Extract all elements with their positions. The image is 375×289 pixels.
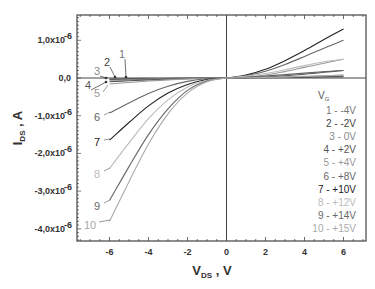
y-tick-exponent: -6 [64,220,72,230]
y-tick-exponent: -6 [64,144,72,154]
legend-entry-5: 5 - +4V [323,157,356,168]
x-tick-label: -6 [105,247,113,257]
annotation-arrow [110,67,115,77]
curve-labels: 12345678910 [84,48,127,231]
y-tick-exponent: -6 [64,107,72,117]
leader-line-7 [104,139,110,140]
legend-entry-3: 3 - 0V [329,131,356,142]
curve-label-9: 9 [94,200,100,212]
x-tick-label: -4 [144,247,152,257]
legend-entry-7: 7 - +10V [318,184,356,195]
y-tick-label: 1,0x10 [37,35,65,45]
annotation-arrow [125,59,126,77]
x-tick-label: 2 [263,247,268,257]
curve-label-4: 4 [85,79,91,91]
y-tick-label: -3,0x10 [34,186,65,196]
legend-entry-8: 8 - +12V [318,197,356,208]
transfer-characteristics-chart: -6-4-202461,0x10-60,0-1,0x10-6-2,0x10-6-… [0,0,375,289]
leader-line-9 [104,200,110,203]
x-tick-label: 0 [224,247,229,257]
curve-label-2: 2 [104,56,110,68]
curve-label-1: 1 [119,48,125,60]
y-tick-exponent: -6 [64,182,72,192]
y-axis-title: IDS , A [10,110,27,145]
leader-line-6 [104,112,110,115]
curve-label-5: 5 [94,87,100,99]
y-tick-label: 0,0 [58,73,71,83]
legend-title: VG [318,90,330,102]
curve-label-3: 3 [94,65,100,77]
x-axis-title: VDS , V [192,263,232,280]
arrow-head [125,76,128,79]
leader-line-5 [103,85,108,92]
arrow-head [105,81,108,84]
curve-label-8: 8 [94,168,100,180]
leader-line-8 [104,168,110,171]
legend-entry-6: 6 - +8V [323,171,356,182]
y-tick-exponent: -6 [64,31,72,41]
arrow-head [114,76,117,79]
curve-label-7: 7 [94,136,100,148]
y-tick-label: -2,0x10 [34,148,65,158]
legend-entry-2: 2 - -2V [326,118,356,129]
legend-entry-1: 1 - -4V [326,105,356,116]
curve-label-6: 6 [94,111,100,123]
x-tick-label: 6 [341,247,346,257]
arrow-head [105,77,108,80]
x-tick-label: 4 [302,247,307,257]
curve-label-10: 10 [84,219,96,231]
x-tick-label: -2 [183,247,191,257]
legend-entry-9: 9 - +14V [318,210,356,221]
y-tick-label: -1,0x10 [34,111,65,121]
leader-line-10 [99,220,110,222]
legend: VG1 - -4V2 - -2V3 - 0V4 - +2V5 - +4V6 - … [312,90,356,234]
legend-entry-4: 4 - +2V [323,144,356,155]
legend-entry-10: 10 - +15V [312,223,356,234]
y-tick-label: -4,0x10 [34,224,65,234]
